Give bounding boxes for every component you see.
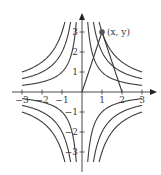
tangent-segment [102, 32, 122, 92]
axes [12, 13, 157, 172]
hyperbola-curve-c3 [22, 112, 65, 162]
hyperbola-curve-cneg3 [99, 112, 142, 162]
x-tick-label: 1 [99, 95, 105, 105]
y-axis-arrow-icon [79, 13, 85, 20]
hyperbola-curve-cneg1 [22, 22, 76, 85]
x-tick-label: 2 [119, 95, 125, 105]
y-tick-label: −2 [65, 127, 78, 137]
point-marker-icon [99, 29, 105, 35]
y-tick-label: −3 [65, 147, 79, 157]
y-tick-label: 3 [72, 27, 78, 37]
point-label: (x, y) [107, 27, 130, 37]
x-tick-label: −3 [15, 95, 29, 105]
hyperbola-curve-cneg1 [88, 99, 142, 162]
x-axis-arrow-icon [150, 89, 157, 95]
radius-segment [82, 32, 102, 92]
hyperbola-level-curves-diagram: −3−2−1123321−1−2−3 (x, y) [0, 0, 161, 175]
y-tick-label: 2 [72, 47, 78, 57]
x-tick-label: −1 [55, 95, 68, 105]
x-tick-label: 3 [139, 95, 145, 105]
y-tick-label: 1 [72, 67, 78, 77]
construction-segments [82, 32, 122, 92]
x-tick-label: −2 [35, 95, 48, 105]
y-tick-label: −1 [65, 107, 78, 117]
hyperbola-curve-cneg3 [22, 22, 65, 72]
